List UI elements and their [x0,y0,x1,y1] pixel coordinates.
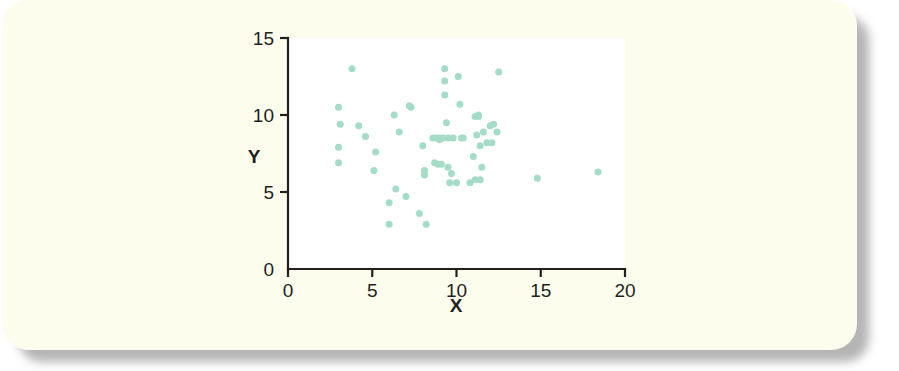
y-axis-tick-label: 15 [253,28,274,49]
data-point [423,221,430,228]
data-point [455,73,462,80]
page-root: 05101520051015 X Y [0,0,899,371]
data-point [408,104,415,111]
data-point [416,210,423,217]
scatter-plot-svg: 05101520051015 X Y [0,0,899,371]
data-point [396,128,403,135]
data-point [490,121,497,128]
data-point [473,132,480,139]
data-point [372,148,379,155]
data-point [335,144,342,151]
data-point [460,135,467,142]
data-point [355,122,362,129]
data-point [337,121,344,128]
data-point [362,133,369,140]
data-point [445,164,452,171]
data-point [421,172,428,179]
y-axis-tick-label: 5 [263,182,274,203]
data-point [453,179,460,186]
data-point [493,128,500,135]
data-point [438,161,445,168]
plot-area-background [288,38,625,269]
data-point [402,193,409,200]
y-axis-tick-label: 0 [263,259,274,280]
plot-container: 05101520051015 X Y [0,0,899,371]
data-point [441,78,448,85]
data-point [495,68,502,75]
x-axis-tick-label: 0 [283,280,294,301]
data-point [386,199,393,206]
x-axis-tick-label: 5 [367,280,378,301]
data-point [456,101,463,108]
data-point [391,112,398,119]
data-point [488,139,495,146]
y-axis-tick-label: 10 [253,105,274,126]
data-point [595,168,602,175]
data-point [443,119,450,126]
data-point [441,91,448,98]
data-point [441,65,448,72]
data-point [419,142,426,149]
data-point [436,136,443,143]
data-point [386,221,393,228]
data-point [477,142,484,149]
x-axis-tick-label: 20 [614,280,635,301]
data-point [470,153,477,160]
data-point [446,179,453,186]
data-point [534,175,541,182]
data-point [477,176,484,183]
data-point [335,104,342,111]
data-point [448,170,455,177]
y-axis-title: Y [248,146,261,167]
data-point [392,185,399,192]
data-point [349,65,356,72]
x-axis-title: X [450,295,463,316]
data-point [450,135,457,142]
data-point [335,159,342,166]
data-point [472,113,479,120]
data-point [478,164,485,171]
data-point [370,167,377,174]
data-point [480,128,487,135]
x-axis-tick-label: 15 [530,280,551,301]
